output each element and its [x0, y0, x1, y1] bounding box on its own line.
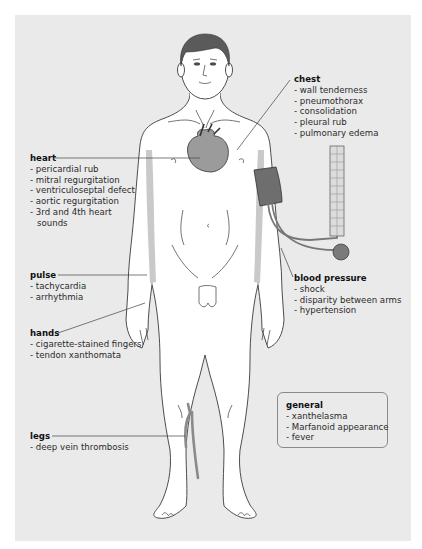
- legs-item: - deep vein thrombosis: [30, 442, 129, 453]
- chest-item: - pleural rub: [294, 117, 378, 128]
- label-legs: legs - deep vein thrombosis: [30, 431, 129, 453]
- label-bp-title: blood pressure: [294, 273, 401, 284]
- bp-item: - shock: [294, 284, 401, 295]
- chest-item: - wall tenderness: [294, 85, 378, 96]
- label-hands-title: hands: [30, 328, 141, 339]
- heart-item: - ventriculoseptal defect: [30, 185, 135, 196]
- chest-item: - consolidation: [294, 106, 378, 117]
- leader-bp: [281, 248, 293, 277]
- heart-item: - mitral regurgitation: [30, 175, 135, 186]
- bp-item: - disparity between arms: [294, 295, 401, 306]
- label-heart-title: heart: [30, 153, 135, 164]
- label-general: general - xanthelasma - Marfanoid appear…: [286, 400, 389, 443]
- hands-item: - tendon xanthomata: [30, 350, 141, 361]
- general-item: - Marfanoid appearance: [286, 422, 389, 433]
- label-chest: chest - wall tenderness - pneumothorax -…: [294, 74, 378, 139]
- heart-item: sounds: [30, 218, 135, 229]
- label-chest-title: chest: [294, 74, 378, 85]
- heart-item: - pericardial rub: [30, 164, 135, 175]
- general-item: - fever: [286, 432, 389, 443]
- label-general-title: general: [286, 400, 389, 411]
- bulb-icon: [333, 244, 349, 260]
- pulse-item: - tachycardia: [30, 281, 86, 292]
- general-item: - xanthelasma: [286, 411, 389, 422]
- chest-item: - pneumothorax: [294, 96, 378, 107]
- label-heart: heart - pericardial rub - mitral regurgi…: [30, 153, 135, 229]
- heart-item: - 3rd and 4th heart: [30, 207, 135, 218]
- label-blood-pressure: blood pressure - shock - disparity betwe…: [294, 273, 401, 316]
- chest-item: - pulmonary edema: [294, 128, 378, 139]
- label-pulse-title: pulse: [30, 270, 86, 281]
- pulse-item: - arrhythmia: [30, 292, 86, 303]
- label-hands: hands - cigarette-stained fingers - tend…: [30, 328, 141, 360]
- heart-item: - aortic regurgitation: [30, 196, 135, 207]
- bp-item: - hypertension: [294, 305, 401, 316]
- hands-item: - cigarette-stained fingers: [30, 339, 141, 350]
- label-legs-title: legs: [30, 431, 129, 442]
- label-pulse: pulse - tachycardia - arrhythmia: [30, 270, 86, 302]
